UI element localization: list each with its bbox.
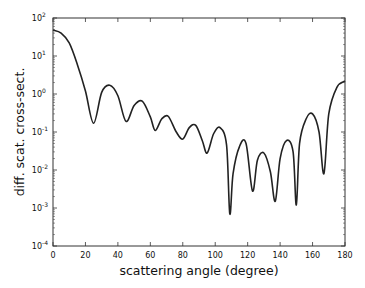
- y-tick-label: 10: [32, 242, 42, 251]
- x-tick-label: 120: [240, 251, 255, 260]
- y-tick-label: 10: [32, 166, 42, 175]
- y-tick-exponent: -4: [42, 239, 48, 246]
- x-tick-label: 180: [337, 251, 352, 260]
- chart: 020406080100120140160180 10210110010-110…: [0, 0, 365, 288]
- data-curve: [53, 30, 345, 214]
- x-tick-label: 40: [113, 251, 123, 260]
- x-tick-label: 100: [208, 251, 223, 260]
- y-tick-label: 10: [32, 90, 42, 99]
- y-tick-label: 10: [32, 128, 42, 137]
- x-tick-label: 140: [272, 251, 287, 260]
- y-tick-exponent: 0: [42, 87, 46, 94]
- y-tick-label: 10: [32, 204, 42, 213]
- y-axis-ticks: 10210110010-110-210-310-4: [32, 11, 345, 251]
- y-tick-exponent: -2: [42, 163, 48, 170]
- y-tick-exponent: -3: [42, 201, 48, 208]
- x-tick-label: 60: [145, 251, 155, 260]
- y-tick-exponent: 1: [42, 49, 46, 56]
- x-tick-label: 20: [80, 251, 90, 260]
- y-tick-label: 10: [32, 14, 42, 23]
- x-axis-label: scattering angle (degree): [119, 263, 278, 278]
- x-tick-label: 0: [50, 251, 55, 260]
- y-tick-label: 10: [32, 52, 42, 61]
- y-tick-exponent: -1: [42, 125, 48, 132]
- y-axis-label: diff. scat. cross-sect.: [12, 68, 27, 197]
- x-tick-label: 160: [305, 251, 320, 260]
- y-tick-exponent: 2: [42, 11, 46, 18]
- x-tick-label: 80: [178, 251, 188, 260]
